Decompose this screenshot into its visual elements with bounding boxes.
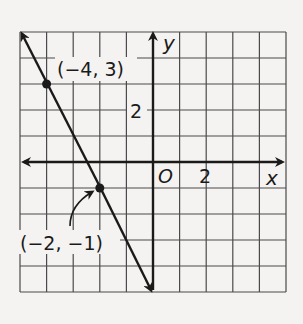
coordinate-plane: (−4, 3) (−2, −1) 2 2 O x y — [0, 0, 303, 324]
y-axis-label: y — [162, 31, 176, 55]
point-neg4-3 — [42, 80, 51, 89]
point-label-neg2-neg1: (−2, −1) — [20, 232, 103, 254]
point-neg2-neg1 — [95, 184, 104, 193]
x-tick-label-2: 2 — [199, 165, 211, 187]
point-label-neg4-3: (−4, 3) — [57, 58, 124, 80]
origin-label: O — [158, 165, 173, 187]
y-tick-label-2: 2 — [130, 100, 142, 122]
x-axis-label: x — [265, 166, 278, 190]
